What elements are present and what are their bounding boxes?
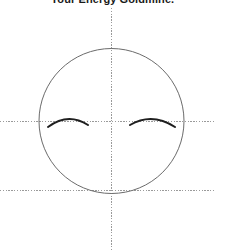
- right-eye-arc: [130, 119, 175, 127]
- left-eye-arc: [48, 119, 88, 127]
- face-diagram: [0, 0, 225, 251]
- diagram-canvas: Your Energy Goldmine.: [0, 0, 225, 251]
